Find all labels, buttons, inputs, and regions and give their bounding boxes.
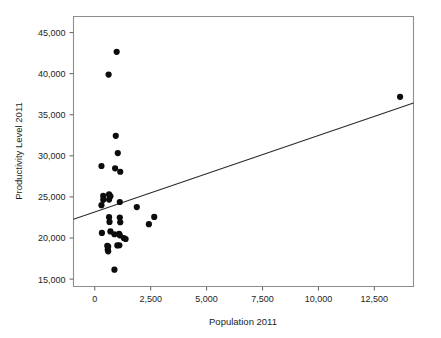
y-tick-label: 35,000	[38, 110, 66, 120]
data-point	[123, 236, 129, 242]
data-point	[99, 230, 105, 236]
data-point	[117, 199, 123, 205]
data-point	[115, 150, 121, 156]
y-tick-label: 40,000	[38, 69, 66, 79]
data-point	[114, 49, 120, 55]
x-tick-label: 12,500	[361, 294, 389, 304]
data-point	[134, 204, 140, 210]
y-tick-label: 20,000	[38, 233, 66, 243]
data-point	[106, 219, 112, 225]
y-tick-label: 30,000	[38, 151, 66, 161]
data-point	[98, 163, 104, 169]
data-point	[117, 219, 123, 225]
data-point	[106, 72, 112, 78]
data-point	[117, 169, 123, 175]
data-point	[106, 196, 112, 202]
data-point	[100, 197, 106, 203]
y-axis-title: Productivity Level 2011	[13, 102, 24, 200]
scatter-plot-figure: 15,00020,00025,00030,00035,00040,00045,0…	[0, 0, 441, 338]
data-point	[98, 202, 104, 208]
data-point	[146, 221, 152, 227]
data-point	[112, 165, 118, 171]
data-point	[113, 133, 119, 139]
x-tick-label: 7,500	[251, 294, 274, 304]
x-axis-title: Population 2011	[209, 316, 277, 327]
plot-canvas: 15,00020,00025,00030,00035,00040,00045,0…	[0, 0, 441, 338]
data-point	[397, 94, 403, 100]
x-tick-label: 2,500	[139, 294, 162, 304]
x-tick-label: 5,000	[195, 294, 218, 304]
data-point	[111, 267, 117, 273]
data-point	[116, 242, 122, 248]
data-point	[105, 248, 111, 254]
data-point	[151, 214, 157, 220]
y-tick-label: 15,000	[38, 275, 66, 285]
y-tick-label: 45,000	[38, 28, 66, 38]
x-tick-label: 0	[92, 294, 97, 304]
x-tick-label: 10,000	[305, 294, 333, 304]
y-tick-label: 25,000	[38, 192, 66, 202]
